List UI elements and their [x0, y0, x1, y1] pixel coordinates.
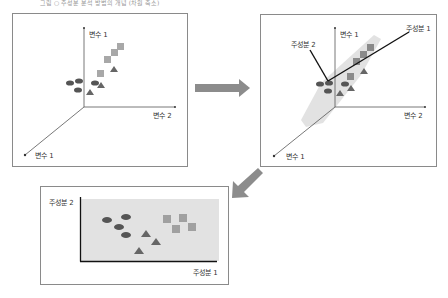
right-arrow-icon [195, 79, 255, 97]
y-axis-label: 주성분 2 [49, 198, 74, 207]
square-marker [104, 56, 111, 63]
x-axis-label: 주성분 1 [193, 268, 218, 277]
axis-label-var1-vertical: 변수 1 [340, 31, 359, 39]
square-marker [163, 215, 171, 223]
square-marker [111, 49, 118, 56]
panel-principal-components: 변수 1 변수 2 변수 1 주성분 1 주성분 2 [260, 14, 437, 167]
axis-label-var1-depth: 변수 1 [35, 152, 54, 160]
down-left-arrow-icon [230, 166, 264, 200]
figure-caption: 그림 ○ 주성분 분석 방법의 개념 (차원 축소) [40, 0, 159, 7]
circle-marker [91, 80, 99, 85]
pc2-axis [310, 50, 328, 81]
square-marker [360, 51, 367, 58]
axis-label-var2: 변수 2 [153, 112, 172, 120]
original-space-plot: 변수 1 변수 2 변수 1 [13, 14, 189, 168]
panel-original-space: 변수 1 변수 2 변수 1 [12, 13, 188, 167]
axis-label-var1-vertical: 변수 1 [89, 31, 108, 39]
pc1-label: 주성분 1 [406, 24, 431, 33]
circle-marker [121, 214, 131, 220]
axis-label-var1-depth: 변수 1 [286, 153, 305, 161]
triangle-marker [86, 89, 94, 95]
circle-marker [316, 81, 324, 86]
reduced-space-plot: 주성분 2 주성분 1 [41, 187, 230, 286]
square-marker [188, 223, 196, 231]
circle-marker [75, 78, 83, 83]
circle-marker [341, 81, 349, 86]
circle-marker [324, 88, 332, 93]
pc2-label: 주성분 2 [291, 40, 316, 49]
plot-background [81, 199, 219, 261]
square-marker [117, 43, 124, 50]
circle-marker [114, 224, 124, 230]
square-marker [172, 225, 180, 233]
pc1-axis [328, 32, 409, 81]
square-marker [97, 70, 104, 77]
triangle-marker [110, 66, 118, 72]
circle-marker [74, 87, 82, 92]
circle-marker [121, 232, 131, 238]
square-marker [347, 73, 354, 80]
circle-marker [66, 80, 74, 85]
panel-reduced-space: 주성분 2 주성분 1 [40, 186, 229, 285]
square-marker [367, 44, 374, 51]
circle-marker [102, 217, 112, 223]
pca-space-plot: 변수 1 변수 2 변수 1 주성분 1 주성분 2 [261, 15, 438, 168]
square-marker [179, 214, 187, 222]
axis-label-var2: 변수 2 [404, 112, 423, 120]
